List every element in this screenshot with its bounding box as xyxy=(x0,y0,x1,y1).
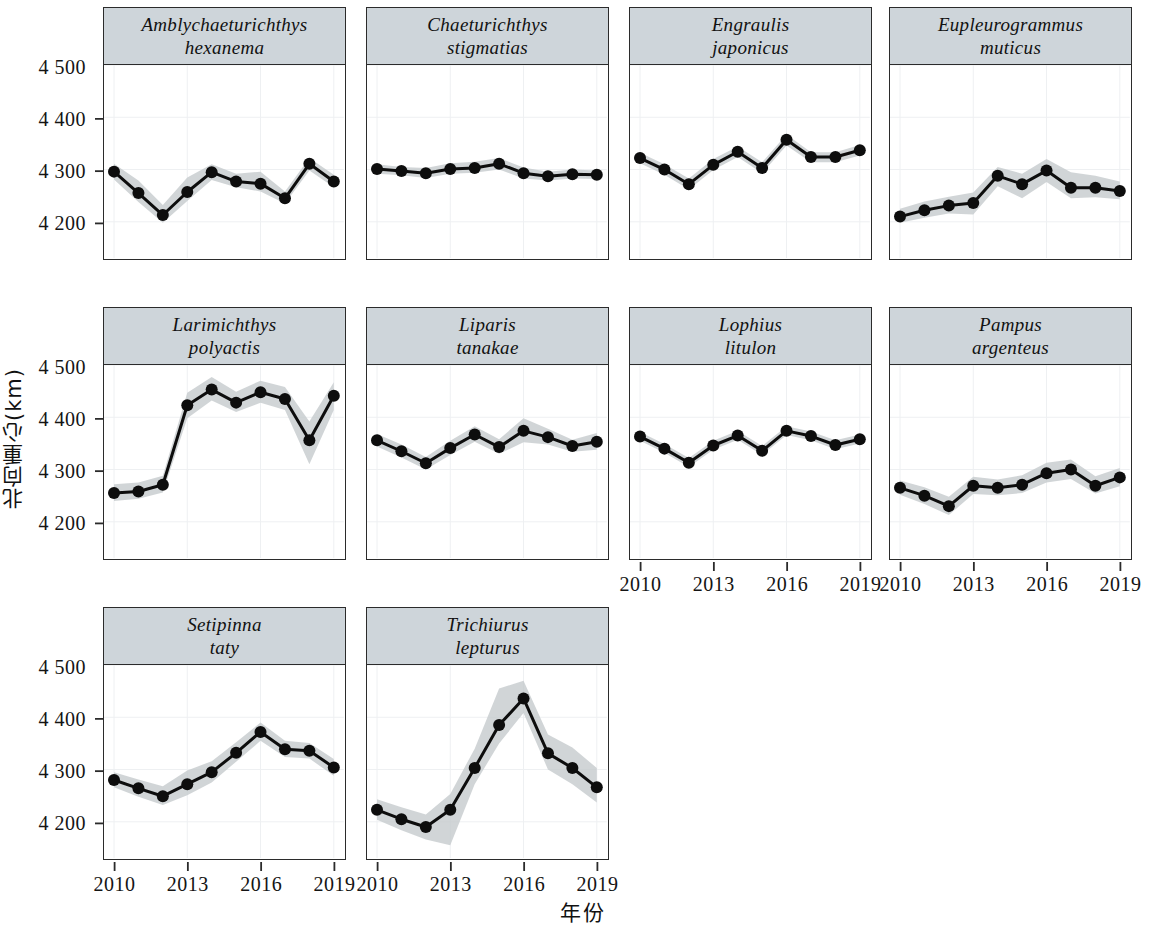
data-point xyxy=(279,743,291,755)
panel-title-line: Chaeturichthys xyxy=(367,13,608,36)
data-point xyxy=(542,170,554,182)
data-point xyxy=(1089,480,1101,492)
x-tick-label: 2019 xyxy=(313,873,355,896)
panel-title-line: lepturus xyxy=(367,636,608,659)
y-tick-label: 4 400 xyxy=(39,107,87,130)
data-point xyxy=(469,429,481,441)
plot-area xyxy=(366,665,609,860)
y-tick-label: 4 400 xyxy=(39,407,87,430)
series-plot xyxy=(367,365,607,558)
data-point xyxy=(805,151,817,163)
y-axis-title: 北向重心(km) xyxy=(2,368,38,509)
data-point xyxy=(518,167,530,179)
data-point xyxy=(894,211,906,223)
panel-title-line: Engraulis xyxy=(630,13,871,36)
data-point xyxy=(279,192,291,204)
x-tick-marks xyxy=(629,560,872,572)
panel-title-strip: Chaeturichthysstigmatias xyxy=(366,7,609,65)
panel-title-line: stigmatias xyxy=(367,36,608,59)
data-point xyxy=(371,434,383,446)
panel-title-strip: Engraulisjaponicus xyxy=(629,7,872,65)
data-point xyxy=(1065,464,1077,476)
confidence-band xyxy=(640,426,860,467)
panel-title-strip: Pampusargenteus xyxy=(889,307,1132,365)
panel-title-line: hexanema xyxy=(104,36,345,59)
data-point xyxy=(206,384,218,396)
y-tick-label: 4 200 xyxy=(39,812,87,835)
data-point xyxy=(992,170,1004,182)
data-point xyxy=(756,445,768,457)
data-point xyxy=(303,158,315,170)
data-point xyxy=(894,482,906,494)
data-point xyxy=(918,490,930,502)
series-plot xyxy=(630,365,870,558)
data-point xyxy=(255,178,267,190)
panel-title-strip: Setipinnataty xyxy=(103,607,346,665)
data-point xyxy=(732,430,744,442)
panel-title-strip: Amblychaeturichthyshexanema xyxy=(103,7,346,65)
panel-trichiurus-lepturus: Trichiuruslepturus xyxy=(366,607,609,860)
data-point xyxy=(1089,182,1101,194)
x-tick-label: 2019 xyxy=(576,873,618,896)
data-point xyxy=(566,440,578,452)
data-point xyxy=(181,778,193,790)
data-point xyxy=(328,761,340,773)
panel-title-line: polyactis xyxy=(104,336,345,359)
x-tick-label: 2013 xyxy=(167,873,209,896)
panel-setipinna-taty: Setipinnataty xyxy=(103,607,346,860)
plot-area xyxy=(629,65,872,260)
panel-title-line: argenteus xyxy=(890,336,1131,359)
series-plot xyxy=(890,65,1130,258)
panel-chaeturichthys-stigmatias: Chaeturichthysstigmatias xyxy=(366,7,609,260)
data-point xyxy=(395,813,407,825)
panel-title-line: muticus xyxy=(890,36,1131,59)
x-axis-tick-labels: 2010201320162019 xyxy=(103,873,346,899)
panel-liparis-tanakae: Liparistanakae xyxy=(366,307,609,560)
plot-area xyxy=(889,65,1132,260)
panel-title-strip: Eupleurogrammusmuticus xyxy=(889,7,1132,65)
panel-title-line: Pampus xyxy=(890,313,1131,336)
x-tick-label: 2016 xyxy=(1026,573,1068,596)
data-point xyxy=(132,485,144,497)
panel-title-line: litulon xyxy=(630,336,871,359)
data-point xyxy=(1114,471,1126,483)
data-point xyxy=(108,487,120,499)
data-point xyxy=(108,166,120,178)
data-point xyxy=(943,200,955,212)
data-point xyxy=(444,442,456,454)
data-point xyxy=(1016,479,1028,491)
data-point xyxy=(157,479,169,491)
plot-area xyxy=(889,365,1132,560)
x-tick-label: 2019 xyxy=(1099,573,1141,596)
panel-title-line: tanakae xyxy=(367,336,608,359)
panel-lophius-litulon: Lophiuslitulon xyxy=(629,307,872,560)
data-point xyxy=(444,804,456,816)
series-plot xyxy=(367,65,607,258)
data-point xyxy=(493,158,505,170)
data-point xyxy=(328,176,340,188)
data-point xyxy=(420,457,432,469)
multi-panel-line-chart: Amblychaeturichthyshexanema4 2004 3004 4… xyxy=(0,0,1151,929)
confidence-band xyxy=(640,135,860,190)
data-point xyxy=(395,165,407,177)
panel-title-line: Liparis xyxy=(367,313,608,336)
panel-title-line: Amblychaeturichthys xyxy=(104,13,345,36)
data-point xyxy=(493,441,505,453)
panel-title-strip: Trichiuruslepturus xyxy=(366,607,609,665)
x-axis-tick-labels: 2010201320162019 xyxy=(629,573,872,599)
panel-title-strip: Larimichthyspolyactis xyxy=(103,307,346,365)
data-point xyxy=(493,719,505,731)
data-point xyxy=(132,187,144,199)
data-point xyxy=(591,436,603,448)
data-point xyxy=(230,176,242,188)
data-point xyxy=(157,790,169,802)
panel-title-line: Lophius xyxy=(630,313,871,336)
data-point xyxy=(328,390,340,402)
data-point xyxy=(279,393,291,405)
panel-title-line: japonicus xyxy=(630,36,871,59)
data-point xyxy=(634,152,646,164)
data-point xyxy=(132,782,144,794)
panel-larimichthys-polyactis: Larimichthyspolyactis xyxy=(103,307,346,560)
data-point xyxy=(1041,467,1053,479)
data-point xyxy=(1041,165,1053,177)
